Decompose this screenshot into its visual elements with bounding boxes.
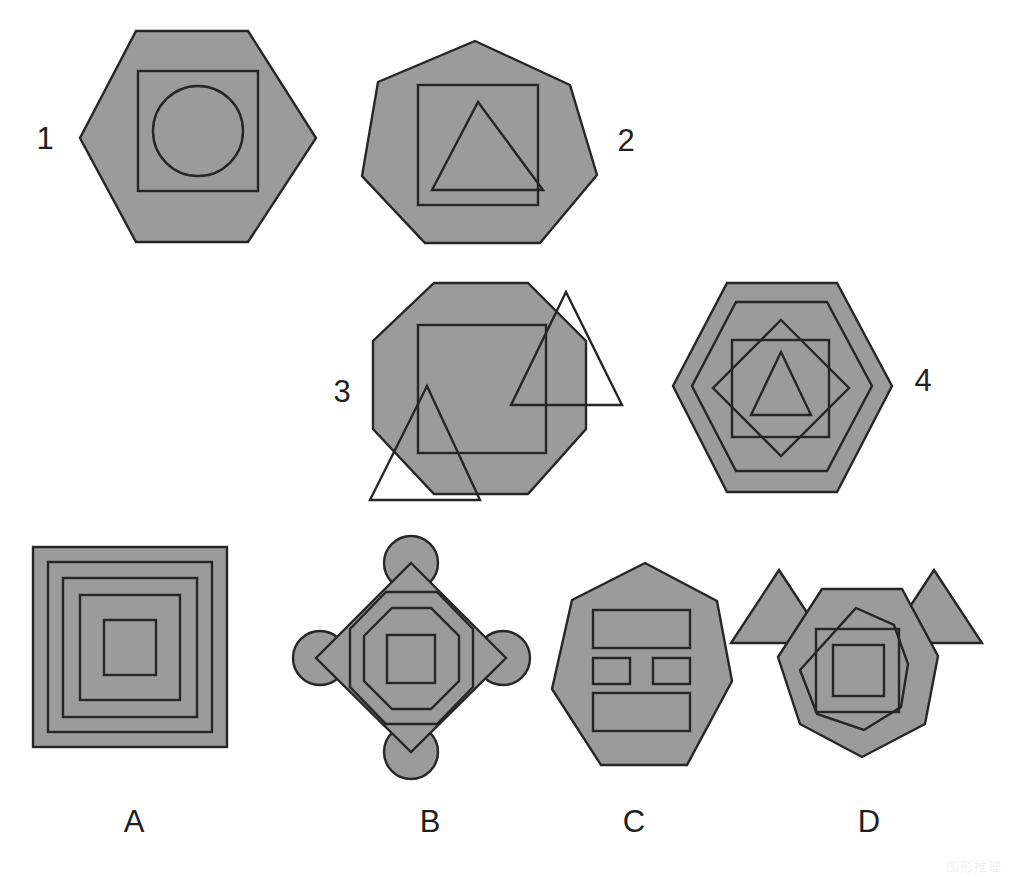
option-b-label: B	[420, 804, 441, 839]
option-c-label: C	[623, 804, 645, 839]
figure-3[interactable]: 3	[333, 283, 622, 500]
option-b[interactable]: B	[293, 536, 530, 839]
figure-4[interactable]: 4	[673, 283, 932, 492]
figure-3-label: 3	[333, 374, 350, 409]
option-c-heptagon	[552, 563, 732, 765]
option-d[interactable]: D	[731, 570, 982, 839]
figure-2-label: 2	[617, 123, 634, 158]
figure-1-label: 1	[36, 121, 53, 156]
option-a[interactable]: A	[33, 547, 227, 839]
figure-4-hexagon-outer	[673, 283, 892, 492]
option-d-label: D	[858, 804, 880, 839]
figure-2-heptagon	[362, 41, 597, 243]
watermark-text: 图形推理	[946, 856, 1002, 875]
option-a-label: A	[124, 804, 145, 839]
figure-1-hexagon	[80, 31, 316, 242]
option-c[interactable]: C	[552, 563, 732, 839]
figure-1[interactable]: 1	[36, 31, 316, 242]
puzzle-canvas: 1 2 3 4 A	[0, 0, 1010, 877]
figure-2[interactable]: 2	[362, 41, 635, 243]
figure-4-label: 4	[914, 363, 931, 398]
